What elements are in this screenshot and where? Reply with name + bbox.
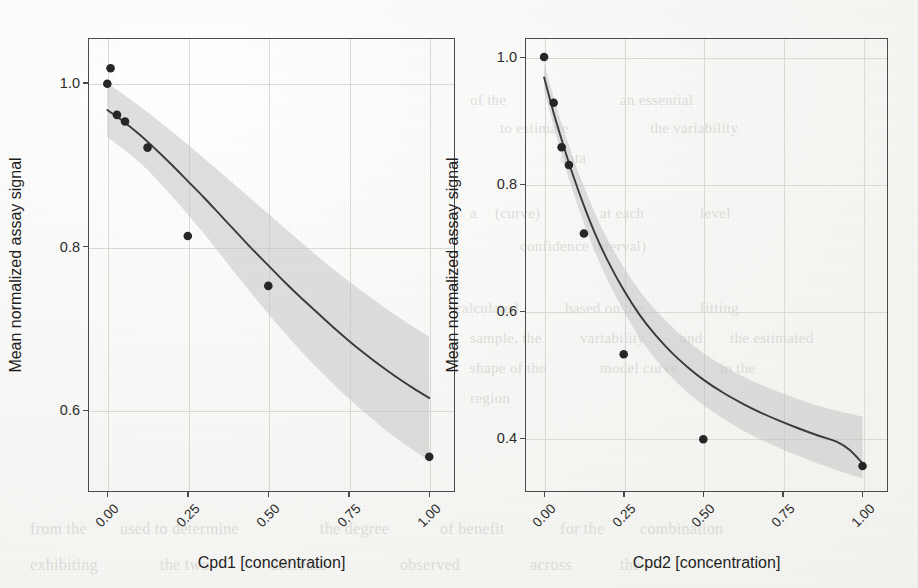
x-tick-mark — [544, 492, 545, 497]
y-axis-title-cpd2: Mean normalized assay signal — [444, 157, 462, 372]
data-point — [699, 435, 708, 444]
data-point — [858, 462, 867, 471]
two-panel-dose-response-figure: 0.60.81.00.000.250.500.751.00 Cpd1 [conc… — [0, 0, 918, 588]
y-tick-mark — [520, 57, 525, 58]
y-tick-mark — [520, 438, 525, 439]
data-point — [619, 350, 628, 359]
x-tick-mark — [623, 492, 624, 497]
data-point — [549, 98, 558, 107]
x-axis-title-cpd2: Cpd2 [concentration] — [525, 554, 888, 572]
y-tick-mark — [520, 311, 525, 312]
panel-cpd2: 0.40.60.81.00.000.250.500.751.00 Cpd2 [c… — [0, 0, 918, 588]
x-tick-mark — [703, 492, 704, 497]
data-point — [580, 229, 589, 238]
x-tick-mark — [862, 492, 863, 497]
y-tick-label: 0.6 — [477, 303, 517, 319]
confidence-band — [544, 63, 862, 478]
data-point — [540, 53, 549, 62]
x-tick-mark — [782, 492, 783, 497]
y-tick-label: 0.4 — [477, 430, 517, 446]
data-point — [565, 161, 574, 170]
data-point — [557, 143, 566, 152]
y-tick-label: 1.0 — [477, 49, 517, 65]
y-tick-label: 0.8 — [477, 176, 517, 192]
y-tick-mark — [520, 184, 525, 185]
